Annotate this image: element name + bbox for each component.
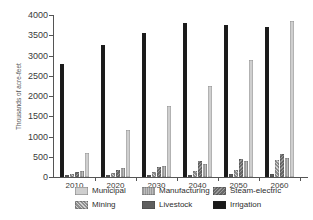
bar-chart-figure: Thousands of acre-feet 05001000150020002… xyxy=(0,0,313,220)
bar-mining-2050 xyxy=(234,170,238,177)
bar-mining-2040 xyxy=(193,171,197,177)
bar-manufacturing-2040 xyxy=(203,164,207,177)
bar-municipal-2050 xyxy=(249,60,253,177)
bar-irrigation-2030 xyxy=(142,33,146,177)
bar-mining-2010 xyxy=(70,174,74,177)
bar-manufacturing-2010 xyxy=(80,171,84,177)
legend-label-municipal: Municipal xyxy=(92,186,126,195)
bar-steam-electric-2020 xyxy=(116,170,120,177)
bar-steam-electric-2050 xyxy=(239,159,243,177)
legend-item-irrigation: Irrigation xyxy=(213,200,261,209)
bar-municipal-2040 xyxy=(208,86,212,177)
legend-item-steam-electric: Steam-electric xyxy=(213,186,281,195)
y-tick-label: 2500 xyxy=(18,71,48,81)
bar-manufacturing-2060 xyxy=(285,158,289,177)
y-tick-mark xyxy=(49,96,53,97)
bar-livestock-2020 xyxy=(106,175,110,177)
bar-irrigation-2040 xyxy=(183,23,187,177)
legend-label-irrigation: Irrigation xyxy=(230,200,261,209)
bar-mining-2020 xyxy=(111,173,115,177)
bar-irrigation-2010 xyxy=(60,64,64,177)
bar-livestock-2050 xyxy=(229,174,233,177)
bar-manufacturing-2050 xyxy=(244,161,248,177)
legend-item-municipal: Municipal xyxy=(75,186,126,195)
legend-label-mining: Mining xyxy=(92,200,116,209)
bar-municipal-2020 xyxy=(126,130,130,177)
x-axis-line xyxy=(53,177,308,178)
bar-manufacturing-2020 xyxy=(121,168,125,177)
legend-swatch-mining xyxy=(75,201,88,209)
bar-steam-electric-2030 xyxy=(157,167,161,177)
y-tick-label: 3000 xyxy=(18,51,48,61)
y-tick-mark xyxy=(49,56,53,57)
bar-municipal-2030 xyxy=(167,106,171,177)
bar-steam-electric-2060 xyxy=(280,154,284,177)
y-tick-label: 1500 xyxy=(18,111,48,121)
y-tick-mark xyxy=(49,157,53,158)
bar-livestock-2010 xyxy=(65,175,69,177)
bar-steam-electric-2040 xyxy=(198,161,202,177)
legend-item-livestock: Livestock xyxy=(142,200,192,209)
bar-mining-2030 xyxy=(152,172,156,177)
legend-item-mining: Mining xyxy=(75,200,116,209)
y-axis-line xyxy=(53,15,54,178)
y-tick-mark xyxy=(49,35,53,36)
y-tick-mark xyxy=(49,15,53,16)
bar-livestock-2060 xyxy=(270,174,274,177)
bar-irrigation-2050 xyxy=(224,25,228,177)
y-tick-label: 2000 xyxy=(18,91,48,101)
bar-municipal-2060 xyxy=(290,21,294,177)
legend-item-manufacturing: Manufacturing xyxy=(142,186,210,195)
y-tick-mark xyxy=(49,177,53,178)
legend-swatch-steam-electric xyxy=(213,187,226,195)
x-tick-mark xyxy=(300,178,301,181)
y-tick-label: 500 xyxy=(18,152,48,162)
bar-livestock-2040 xyxy=(188,175,192,177)
bar-steam-electric-2010 xyxy=(75,172,79,177)
y-tick-label: 4000 xyxy=(18,10,48,20)
bar-livestock-2030 xyxy=(147,175,151,177)
y-tick-mark xyxy=(49,76,53,77)
legend-swatch-irrigation xyxy=(213,201,226,209)
bar-mining-2060 xyxy=(275,160,279,177)
y-tick-label: 3500 xyxy=(18,30,48,40)
legend-swatch-livestock xyxy=(142,201,155,209)
bar-municipal-2010 xyxy=(85,153,89,177)
bar-irrigation-2060 xyxy=(265,27,269,177)
legend-label-steam-electric: Steam-electric xyxy=(230,186,281,195)
y-tick-label: 1000 xyxy=(18,132,48,142)
legend-label-livestock: Livestock xyxy=(159,200,192,209)
y-tick-mark xyxy=(49,137,53,138)
bar-manufacturing-2030 xyxy=(162,166,166,177)
legend-swatch-municipal xyxy=(75,187,88,195)
legend-label-manufacturing: Manufacturing xyxy=(159,186,210,195)
y-tick-label: 0 xyxy=(18,172,48,182)
legend-swatch-manufacturing xyxy=(142,187,155,195)
bar-irrigation-2020 xyxy=(101,45,105,177)
y-tick-mark xyxy=(49,116,53,117)
